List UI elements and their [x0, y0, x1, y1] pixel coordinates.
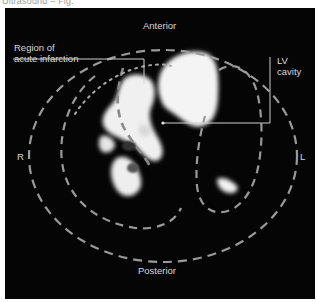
callout-lv-line1: LV: [277, 55, 301, 66]
callout-region-line1: Region of: [14, 42, 78, 53]
uptake-blob-small-right: [217, 178, 238, 193]
figure-caption-clipped: Ultrasound – Fig.: [2, 0, 74, 6]
infarct-callout-dot: [142, 81, 145, 84]
uptake-blob-left-lower: [111, 157, 141, 196]
lv-callout-dot: [161, 121, 164, 124]
callout-region-line2: acute infarction: [14, 53, 78, 64]
callout-lv-cavity: LV cavity: [277, 55, 301, 77]
label-posterior: Posterior: [138, 265, 176, 276]
label-right-side: R: [17, 151, 24, 162]
callout-lv-line2: cavity: [277, 66, 301, 77]
tracer-uptake-regions: [99, 52, 238, 197]
callout-region-of-acute-infarction: Region of acute infarction: [14, 42, 78, 64]
uptake-blob-left-fragment: [99, 135, 115, 152]
label-left-side: L: [300, 151, 305, 162]
scan-shadow: [122, 141, 136, 151]
label-anterior: Anterior: [143, 20, 176, 31]
uptake-blob-upper-right: [158, 52, 218, 127]
scan-shadow-2: [127, 163, 139, 173]
scan-panel: Anterior Posterior R L Region of acute i…: [5, 8, 315, 299]
